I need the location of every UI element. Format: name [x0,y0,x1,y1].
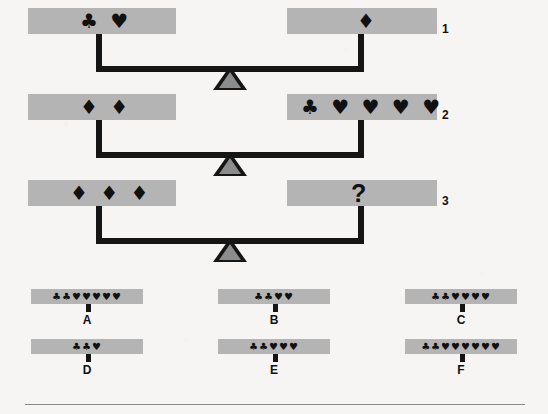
option-letter-b: B [218,313,330,327]
option-symbols-e: ♣♣♥♥♥ [218,339,330,354]
option-letter-f: F [405,363,517,377]
option-stem-c [460,304,465,312]
pan-right-row-2: ♣ ♥ ♥ ♥ ♥ [287,94,437,120]
option-letter-a: A [31,313,143,327]
option-symbols-f: ♣♣♥♥♥♥♥♥ [405,339,517,354]
pan-left-row-2: ♦ ♦ [28,94,176,120]
puzzle-page: ♣ ♥ ♦ 1 ♦ ♦ ♣ ♥ ♥ ♥ ♥ 2 ♦ ♦ ♦ ? [0,0,548,414]
option-letter-d: D [31,363,143,377]
option-symbols-a: ♣♣♥♥♥♥♥ [31,289,143,304]
pan-right-row-3: ? [287,180,437,206]
row-label-2: 2 [442,108,449,122]
pan-left-symbols-row-1: ♣ ♥ [80,11,131,31]
page-divider-rule [25,404,525,405]
option-letter-c: C [405,313,517,327]
option-stem-d [86,354,91,362]
row-label-1: 1 [442,22,449,36]
pan-left-symbols-row-3: ♦ ♦ ♦ [70,183,152,203]
option-stem-e [273,354,278,362]
option-symbols-b: ♣♣♥♥ [218,289,330,304]
option-symbols-c: ♣♣♥♥♥♥ [405,289,517,304]
pan-left-row-3: ♦ ♦ ♦ [28,180,176,206]
row-label-3: 3 [442,194,449,208]
balance-scale-row-2: ♦ ♦ ♣ ♥ ♥ ♥ ♥ 2 [0,86,548,172]
option-stem-f [460,354,465,362]
option-letter-e: E [218,363,330,377]
pan-right-row-1: ♦ [287,8,437,34]
fulcrum-row-3 [213,238,247,262]
balance-scale-row-1: ♣ ♥ ♦ 1 [0,0,548,86]
option-stem-b [273,304,278,312]
pan-right-symbols-row-2: ♣ ♥ ♥ ♥ ♥ [301,97,443,117]
option-stem-a [86,304,91,312]
pan-right-symbols-row-1: ♦ [357,11,378,31]
pan-left-symbols-row-2: ♦ ♦ [80,97,131,117]
pan-left-row-1: ♣ ♥ [28,8,176,34]
balance-scale-row-3: ♦ ♦ ♦ ? 3 [0,172,548,258]
option-symbols-d: ♣♣♥ [31,339,143,354]
unknown-value-placeholder: ? [351,181,366,206]
